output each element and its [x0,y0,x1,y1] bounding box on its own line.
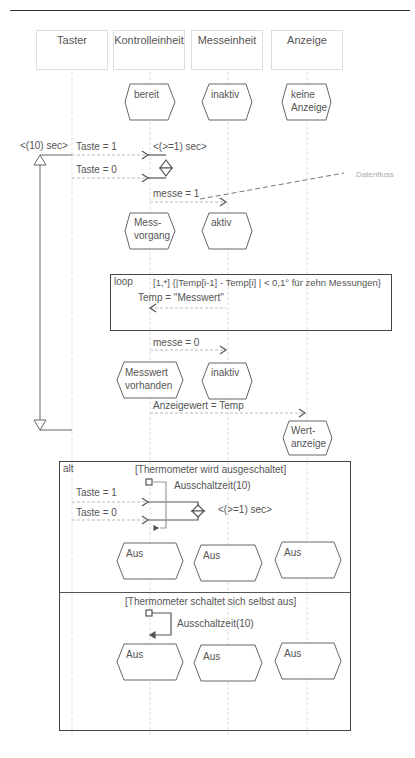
state-aus-6: Aus [284,647,301,660]
state-inaktiv-2: inaktiv [211,366,239,379]
alt-taste0: Taste = 0 [76,507,117,518]
state-aus-3: Aus [284,546,301,559]
state-wert-1: Wert- [291,424,315,437]
state-keine-line1: keine [291,88,315,101]
msg-messe1: messe = 1 [153,188,199,199]
state-messvorgang-2: vorgang [134,229,170,242]
state-messvorgang-1: Mess- [134,216,161,229]
timing-outer: <(10) sec> [20,140,68,151]
state-aus-2: Aus [203,549,220,562]
lifeline-kontrolleinheit: Kontrolleinheit [113,30,185,70]
lifeline-taster: Taster [36,30,108,70]
msg-anzeigewert: Anzeigewert = Temp [153,400,244,411]
state-aus-4: Aus [126,648,143,661]
alt-timer-2: Ausschaltzeit(10) [177,618,254,629]
state-bereit: bereit [134,88,159,101]
alt-taste1: Taste = 1 [76,487,117,498]
lifeline-messeinheit: Messeinheit [191,30,263,70]
state-messwert-2: vorhanden [125,379,172,392]
state-aktiv: aktiv [211,216,232,229]
state-inaktiv: inaktiv [211,88,239,101]
alt-guard-1: [Thermometer wird ausgeschaltet] [135,464,286,475]
msg-taste1: Taste = 1 [76,141,117,152]
alt-divider [59,592,351,593]
annotation-datenfluss: Datenfluss [356,170,394,179]
msg-messe0: messe = 0 [153,337,199,348]
msg-temp: Temp = "Messwert" [138,292,224,303]
state-aus-1: Aus [126,547,143,560]
lifeline-anzeige: Anzeige [271,30,343,70]
alt-timer-1: Ausschaltzeit(10) [174,480,251,491]
state-wert-2: anzeige [291,437,326,450]
state-messwert-1: Messwert [125,366,168,379]
msg-taste0: Taste = 0 [76,164,117,175]
alt-timing: <(>=1) sec> [218,504,272,515]
timing-inner: <(>=1) sec> [153,141,207,152]
state-aus-5: Aus [203,650,220,663]
alt-guard-2: [Thermometer schaltet sich selbst aus] [125,596,296,607]
loop-tag: loop [114,276,133,287]
state-keine-line2: Anzeige [291,101,327,114]
loop-guard: [1,*] {|Temp[i-1] - Temp[i] | < 0,1° für… [153,277,381,288]
alt-tag: alt [63,463,74,474]
